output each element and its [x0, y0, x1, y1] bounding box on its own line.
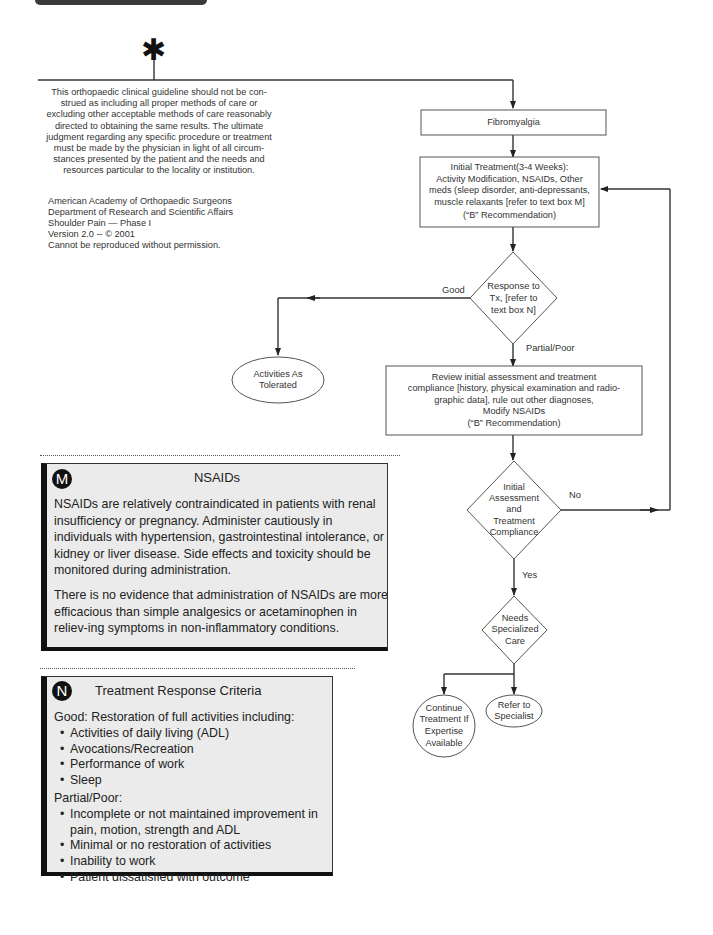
poor-criteria-item: Minimal or no restoration of activities [54, 838, 334, 854]
node-line: Specialized [492, 624, 539, 635]
review-assessment-label: Review initial assessment and treatment … [386, 366, 642, 435]
credit-copyright-notice: Cannot be reproduced without permission. [48, 240, 233, 251]
callout-m-body: NSAIDs are relatively contraindicated in… [54, 496, 389, 637]
disclaimer-line: stances presented by the patient and the… [22, 154, 296, 165]
good-criteria-list: Activities of daily living (ADL) Avocati… [54, 726, 334, 789]
dotted-divider [40, 668, 355, 669]
continue-treatment-label: Continue Treatment If Expertise Availabl… [413, 702, 475, 750]
callout-m-paragraph: NSAIDs are relatively contraindicated in… [54, 496, 389, 579]
node-line: Review initial assessment and treatment [432, 372, 596, 383]
credits-block: American Academy of Orthopaedic Surgeons… [48, 196, 233, 251]
node-line: Refer to [498, 700, 531, 711]
node-line: Assessment [489, 493, 539, 504]
callout-m-title: NSAIDs [47, 470, 387, 485]
poor-criteria-item: Patient dissatisfied with outcome [54, 870, 334, 886]
good-criteria-item: Performance of work [54, 757, 334, 773]
asterisk-icon: ✱ [141, 32, 166, 67]
credit-version: Version 2.0 -- © 2001 [48, 229, 233, 240]
edge-label-partial-poor: Partial/Poor [526, 343, 575, 353]
credit-title: Shoulder Pain — Phase I [48, 218, 233, 229]
node-line: and [506, 504, 521, 515]
node-line: Activity Modification, NSAIDs, Other [436, 174, 583, 185]
fibromyalgia-text: Fibromyalgia [487, 117, 540, 128]
poor-criteria-heading: Partial/Poor: [54, 791, 334, 807]
disclaimer-line: excluding other acceptable methods of ca… [22, 109, 296, 120]
edge-label-no: No [569, 490, 581, 500]
node-line: Initial Treatment(3-4 Weeks): [451, 162, 569, 173]
node-line: compliance [history, physical examinatio… [408, 383, 620, 394]
initial-treatment-label: Initial Treatment(3-4 Weeks): Activity M… [420, 157, 599, 227]
node-line: muscle relaxants [refer to text box M] [434, 197, 585, 208]
disclaimer-line: strued as including all proper methods o… [22, 98, 296, 109]
node-line: Tolerated [259, 380, 297, 391]
refer-to-specialist-label: Refer to Specialist [486, 699, 542, 723]
node-line: (“B” Recommendation) [463, 210, 556, 221]
node-line: Tx, [refer to [490, 292, 538, 304]
node-line: Care [505, 636, 525, 647]
fibromyalgia-label: Fibromyalgia [421, 110, 606, 135]
response-to-tx-label: Response to Tx, [refer to text box N] [470, 280, 557, 316]
node-line: Modify NSAIDs [483, 406, 545, 417]
good-criteria-heading: Good: Restoration of full activities inc… [54, 710, 334, 726]
edge-label-good: Good [442, 285, 465, 295]
node-line: Continue [426, 703, 463, 715]
node-line: Expertise [425, 726, 463, 738]
disclaimer-line: directed to obtaining the same results. … [22, 121, 296, 132]
node-line: Treatment [493, 516, 535, 527]
disclaimer-text: This orthopaedic clinical guideline shou… [22, 87, 296, 177]
node-line: (“B” Recommendation) [468, 418, 561, 429]
activities-as-tolerated-label: Activities As Tolerated [232, 368, 324, 392]
node-line: Available [425, 738, 462, 750]
node-line: Specialist [494, 711, 533, 722]
initial-assessment-label: Initial Assessment and Treatment Complia… [478, 481, 550, 539]
good-criteria-item: Activities of daily living (ADL) [54, 726, 334, 742]
node-line: Needs [502, 613, 529, 624]
poor-criteria-list: Incomplete or not maintained improvement… [54, 807, 334, 886]
good-criteria-item: Sleep [54, 773, 334, 789]
needs-specialized-care-label: Needs Specialized Care [484, 612, 546, 648]
credit-department: Department of Research and Scientific Af… [48, 207, 233, 218]
node-line: text box N] [491, 304, 536, 316]
edge-label-yes: Yes [522, 570, 537, 580]
disclaimer-line: must be made by the physician in light o… [22, 143, 296, 154]
callout-n-title: Treatment Response Criteria [95, 683, 261, 698]
node-line: graphic data], rule out other diagnoses, [434, 395, 593, 406]
disclaimer-line: resources particular to the locality or … [22, 165, 296, 176]
node-line: Response to [487, 280, 540, 292]
node-line: Compliance [490, 527, 539, 538]
callout-box-m: M NSAIDs NSAIDs are relatively contraind… [41, 463, 388, 651]
callout-m-paragraph: There is no evidence that administration… [54, 587, 389, 637]
poor-criteria-item: Incomplete or not maintained improvement… [54, 807, 334, 839]
node-line: Activities As [253, 369, 302, 380]
node-line: Initial [503, 482, 524, 493]
good-criteria-item: Avocations/Recreation [54, 742, 334, 758]
callout-n-body: Good: Restoration of full activities inc… [54, 710, 334, 886]
badge-n-icon: N [52, 681, 72, 701]
disclaimer-line: This orthopaedic clinical guideline shou… [22, 87, 296, 98]
disclaimer-line: judgment regarding any specific procedur… [22, 132, 296, 143]
dotted-divider [40, 455, 400, 456]
node-line: meds (sleep disorder, anti-depressants, [429, 185, 590, 196]
callout-box-n: N Treatment Response Criteria Good: Rest… [41, 676, 333, 876]
credit-organization: American Academy of Orthopaedic Surgeons [48, 196, 233, 207]
poor-criteria-item: Inability to work [54, 854, 334, 870]
node-line: Treatment If [419, 714, 468, 726]
